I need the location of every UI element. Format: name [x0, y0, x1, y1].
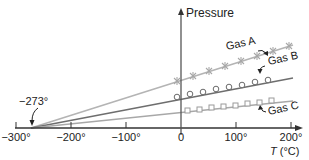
- extrapolation-lines: [31, 45, 293, 128]
- y-axis-arrow-icon: [178, 8, 184, 15]
- x-tick-minus-200: −200°: [56, 132, 85, 143]
- x-axis-variable: T: [270, 145, 277, 157]
- x-tick-100: 100°: [225, 132, 248, 143]
- x-axis-unit: (°C): [277, 145, 300, 157]
- x-axis-label: T (°C): [270, 146, 299, 157]
- gas-pressure-chart: [0, 0, 309, 160]
- y-axis-label: Pressure: [186, 7, 234, 19]
- gas-c-markers: [185, 98, 274, 113]
- x-tick-minus-100: −100°: [111, 132, 140, 143]
- x-tick-200: 200°: [280, 132, 303, 143]
- y-axis: [178, 8, 184, 135]
- absolute-zero-label: −273°: [19, 96, 48, 107]
- x-tick-minus-300: −300°: [1, 132, 30, 143]
- gas-b-markers: [174, 77, 271, 100]
- x-tick-0: 0: [178, 132, 184, 143]
- label-arrows: [30, 50, 269, 126]
